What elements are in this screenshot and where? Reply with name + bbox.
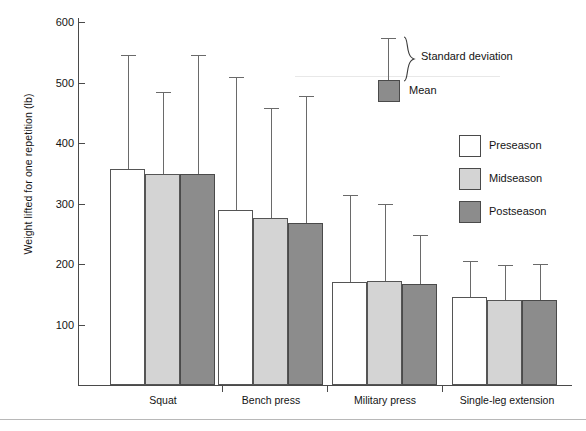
- error-cap-squat-postseason: [191, 55, 206, 56]
- legend-swatch-postseason: [459, 201, 481, 223]
- error-cap-single-leg-extension-preseason: [463, 261, 478, 262]
- bar-military-press-midseason: [367, 281, 402, 385]
- x-tick-separator-3: [442, 385, 443, 392]
- error-bar-squat-preseason: [128, 55, 129, 169]
- error-cap-single-leg-extension-postseason: [533, 264, 548, 265]
- error-cap-bench-press-preseason: [229, 77, 244, 78]
- bar-single-leg-extension-postseason: [522, 300, 557, 385]
- chart-key: Standard deviation Mean: [377, 30, 577, 102]
- legend-item-postseason: Postseason: [459, 201, 586, 234]
- error-bar-military-press-midseason: [385, 204, 386, 281]
- bar-single-leg-extension-preseason: [452, 297, 487, 385]
- y-tick-label-400: 400: [28, 137, 74, 149]
- error-cap-bench-press-postseason: [299, 96, 314, 97]
- bar-bench-press-preseason: [218, 210, 253, 385]
- y-tick-400: [79, 143, 85, 144]
- bar-military-press-preseason: [332, 282, 367, 385]
- error-cap-military-press-midseason: [378, 204, 393, 205]
- error-cap-bench-press-midseason: [264, 108, 279, 109]
- error-bar-military-press-preseason: [350, 195, 351, 282]
- y-tick-100: [79, 325, 85, 326]
- error-bar-squat-midseason: [163, 92, 164, 174]
- error-bar-bench-press-preseason: [236, 77, 237, 209]
- error-bar-bench-press-postseason: [306, 96, 307, 223]
- sd-label: Standard deviation: [421, 50, 513, 62]
- legend-label-preseason: Preseason: [489, 139, 542, 151]
- x-label-squat: Squat: [108, 394, 218, 406]
- x-axis-line: [78, 385, 572, 386]
- bar-single-leg-extension-midseason: [487, 300, 522, 385]
- x-label-military-press: Military press: [330, 394, 440, 406]
- legend-label-midseason: Midseason: [489, 172, 542, 184]
- legend-item-midseason: Midseason: [459, 168, 586, 201]
- error-bar-single-leg-extension-midseason: [505, 265, 506, 299]
- y-tick-label-100: 100: [28, 319, 74, 331]
- error-cap-single-leg-extension-midseason: [498, 265, 513, 266]
- error-bar-squat-postseason: [198, 55, 199, 174]
- y-tick-300: [79, 204, 85, 205]
- y-tick-600: [79, 22, 85, 23]
- error-bar-single-leg-extension-preseason: [470, 261, 471, 297]
- y-tick-label-500: 500: [28, 77, 74, 89]
- error-cap-squat-midseason: [156, 92, 171, 93]
- x-label-single-leg-extension: Single-leg extension: [442, 394, 572, 406]
- legend: Preseason Midseason Postseason: [459, 135, 586, 234]
- brace-icon: [403, 36, 417, 82]
- error-cap-military-press-postseason: [413, 235, 428, 236]
- y-axis-line: [78, 18, 79, 386]
- y-tick-200: [79, 264, 85, 265]
- bar-military-press-postseason: [402, 284, 437, 385]
- error-bar-bench-press-midseason: [271, 108, 272, 218]
- x-label-bench-press: Bench press: [216, 394, 326, 406]
- x-tick-separator-2: [327, 385, 328, 392]
- bar-bench-press-postseason: [288, 223, 323, 385]
- bar-chart: Weight lifted for one repetition (lb) 60…: [0, 0, 586, 431]
- sd-stem-icon: [388, 38, 389, 80]
- legend-label-postseason: Postseason: [489, 205, 546, 217]
- mean-swatch-icon: [378, 80, 400, 102]
- bar-bench-press-midseason: [253, 218, 288, 385]
- y-tick-label-200: 200: [28, 258, 74, 270]
- y-tick-label-600: 600: [28, 16, 74, 28]
- legend-item-preseason: Preseason: [459, 135, 586, 168]
- error-bar-military-press-postseason: [420, 235, 421, 284]
- legend-swatch-preseason: [459, 135, 481, 157]
- x-tick-separator-1: [222, 385, 223, 392]
- footer-divider: [0, 419, 586, 420]
- bar-squat-postseason: [180, 174, 215, 385]
- bar-squat-midseason: [145, 174, 180, 385]
- y-tick-label-300: 300: [28, 198, 74, 210]
- bar-squat-preseason: [110, 169, 145, 385]
- mean-label: Mean: [409, 84, 437, 96]
- y-tick-500: [79, 83, 85, 84]
- error-cap-squat-preseason: [121, 55, 136, 56]
- error-cap-military-press-preseason: [343, 195, 358, 196]
- error-bar-single-leg-extension-postseason: [540, 264, 541, 300]
- legend-swatch-midseason: [459, 168, 481, 190]
